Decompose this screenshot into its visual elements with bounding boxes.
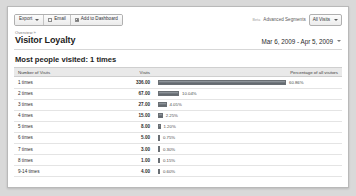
bar-wrapper: 0.30% — [158, 146, 338, 151]
row-visits-value: 4.00 — [110, 166, 154, 177]
percentage-bar — [158, 158, 160, 163]
header-divider — [14, 49, 342, 50]
table-row: 3 times27.004.05% — [14, 99, 342, 110]
bar-wrapper: 4.05% — [158, 102, 338, 107]
table-row: 2 times67.0010.04% — [14, 88, 342, 99]
segment-select-value: All Visits — [313, 17, 330, 22]
table-header-row: Number of Visits Visits Percentage of al… — [14, 68, 342, 77]
percentage-label: 2.25% — [166, 113, 178, 118]
percentage-label: 4.05% — [170, 102, 182, 107]
loyalty-table: Number of Visits Visits Percentage of al… — [14, 67, 342, 177]
table-row: 9-14 times4.000.60% — [14, 166, 342, 177]
bar-wrapper: 10.04% — [158, 91, 338, 96]
percentage-label: 0.60% — [163, 169, 175, 174]
percentage-label: 60.86% — [289, 80, 304, 85]
row-percentage-cell: 10.04% — [154, 88, 342, 99]
percentage-bar — [158, 102, 167, 107]
row-visits-value: 5.00 — [110, 132, 154, 143]
percentage-bar — [158, 135, 160, 140]
percentage-bar — [158, 169, 160, 174]
percentage-label: 0.75% — [163, 135, 175, 140]
advanced-segments-link[interactable]: Advanced Segments — [263, 17, 305, 22]
row-visits-value: 8.00 — [110, 121, 154, 132]
row-label: 6 times — [14, 132, 110, 143]
row-visits-value: 27.00 — [110, 99, 154, 110]
row-percentage-cell: 0.60% — [154, 166, 342, 177]
percentage-bar — [158, 124, 161, 129]
row-label: 8 times — [14, 155, 110, 166]
toolbar-right-group: Beta Advanced Segments All Visits — [253, 14, 342, 26]
table-row: 1 times336.0060.86% — [14, 77, 342, 88]
plus-icon — [75, 18, 79, 22]
table-row: 5 times8.001.20% — [14, 121, 342, 132]
bar-wrapper: 1.20% — [158, 124, 338, 129]
percentage-bar — [158, 113, 163, 118]
export-button-label: Export — [19, 17, 32, 22]
column-header-percentage[interactable]: Percentage of all visitors — [154, 68, 342, 77]
row-label: 3 times — [14, 99, 110, 110]
segment-select[interactable]: All Visits — [309, 14, 342, 26]
report-toolbar: Export Email Add to Dashboard Beta Advan… — [14, 13, 342, 26]
percentage-bar — [158, 80, 286, 85]
bar-wrapper: 0.75% — [158, 135, 338, 140]
header-left: Overview » Visitor Loyalty — [15, 30, 75, 45]
date-range-selector[interactable]: Mar 6, 2009 - Apr 5, 2009 — [262, 38, 341, 46]
percentage-label: 0.15% — [163, 158, 175, 163]
beta-badge: Beta — [253, 18, 261, 22]
email-button-label: Email — [54, 17, 66, 22]
export-button[interactable]: Export — [15, 15, 44, 25]
chevron-down-icon — [337, 40, 341, 42]
bar-wrapper: 60.86% — [158, 80, 338, 85]
add-to-dashboard-button[interactable]: Add to Dashboard — [71, 15, 122, 25]
section-title: Most people visited: 1 times — [15, 55, 342, 64]
percentage-bar — [158, 146, 160, 151]
bar-wrapper: 2.25% — [158, 113, 338, 118]
chevron-down-icon — [334, 19, 338, 21]
row-percentage-cell: 4.05% — [154, 99, 342, 110]
table-body: 1 times336.0060.86%2 times67.0010.04%3 t… — [14, 77, 342, 177]
row-visits-value: 3.00 — [110, 144, 154, 155]
row-percentage-cell: 0.75% — [154, 132, 342, 143]
row-label: 1 times — [14, 77, 110, 88]
row-visits-value: 336.00 — [110, 77, 154, 88]
table-row: 6 times5.000.75% — [14, 132, 342, 143]
page-title: Visitor Loyalty — [15, 36, 75, 45]
row-percentage-cell: 0.15% — [154, 155, 342, 166]
app-background: Export Email Add to Dashboard Beta Advan… — [0, 0, 356, 196]
table-row: 7 times3.000.30% — [14, 144, 342, 155]
percentage-label: 10.04% — [182, 91, 197, 96]
table-header: Number of Visits Visits Percentage of al… — [14, 68, 342, 77]
report-header: Overview » Visitor Loyalty Mar 6, 2009 -… — [14, 30, 342, 45]
row-percentage-cell: 60.86% — [154, 77, 342, 88]
row-label: 5 times — [14, 121, 110, 132]
row-visits-value: 67.00 — [110, 88, 154, 99]
row-visits-value: 15.00 — [110, 110, 154, 121]
date-range-value: Mar 6, 2009 - Apr 5, 2009 — [262, 38, 333, 45]
bar-wrapper: 0.60% — [158, 169, 338, 174]
envelope-icon — [48, 18, 52, 22]
add-to-dashboard-label: Add to Dashboard — [81, 17, 118, 22]
row-visits-value: 1.00 — [110, 155, 154, 166]
percentage-label: 0.30% — [163, 147, 175, 152]
chevron-down-icon — [35, 19, 39, 21]
percentage-label: 1.20% — [164, 124, 176, 129]
email-button[interactable]: Email — [44, 15, 71, 25]
row-label: 2 times — [14, 88, 110, 99]
row-percentage-cell: 0.30% — [154, 144, 342, 155]
row-label: 4 times — [14, 110, 110, 121]
table-row: 4 times15.002.25% — [14, 110, 342, 121]
table-row: 8 times1.000.15% — [14, 155, 342, 166]
report-panel: Export Email Add to Dashboard Beta Advan… — [7, 6, 349, 188]
column-header-visits[interactable]: Visits — [110, 68, 154, 77]
percentage-bar — [158, 91, 179, 96]
row-percentage-cell: 1.20% — [154, 121, 342, 132]
row-percentage-cell: 2.25% — [154, 110, 342, 121]
row-label: 9-14 times — [14, 166, 110, 177]
toolbar-button-group: Export Email Add to Dashboard — [14, 14, 123, 26]
row-label: 7 times — [14, 144, 110, 155]
column-header-number-of-visits[interactable]: Number of Visits — [14, 68, 110, 77]
bar-wrapper: 0.15% — [158, 158, 338, 163]
